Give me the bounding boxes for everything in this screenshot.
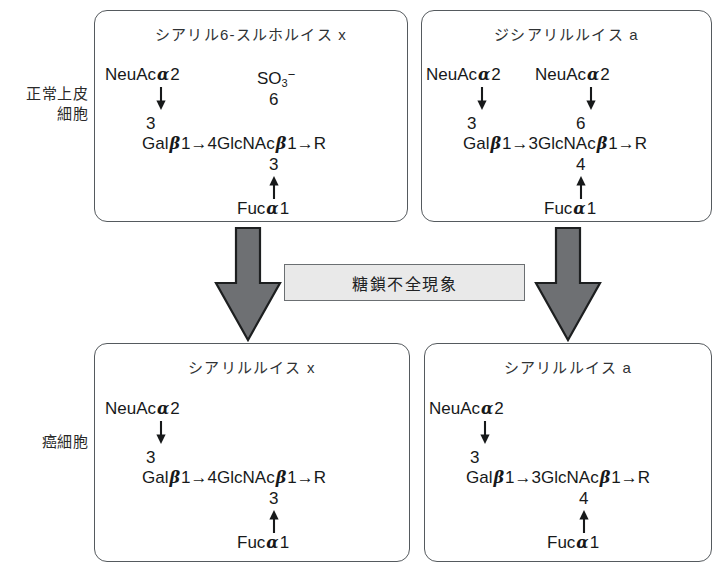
greek-beta-icon-2: β: [275, 468, 288, 487]
sulfate-linkage-number: 6: [269, 91, 278, 108]
linkage-number-lower: 3: [269, 156, 278, 173]
glycan-box-sialyl-6-sulfo-lewis-x: シアリル6-スルホルイス x NeuAcα2 3 SO3− 6 Galβ1→4G…: [94, 10, 408, 222]
residue-fuc: Fucα1: [237, 534, 289, 551]
transition-arrow-right: [530, 226, 606, 344]
greek-alpha-icon-2: α: [265, 533, 279, 552]
linkage-arrow-down: [154, 421, 168, 445]
linkage-arrow-down: [478, 421, 492, 445]
linkage-arrow-up: [574, 175, 588, 199]
greek-alpha-icon: α: [480, 399, 494, 418]
transition-arrow-left: [210, 226, 286, 344]
linkage-number-upper: 3: [146, 449, 155, 466]
residue-neuac-upper: NeuAcα2: [105, 400, 180, 417]
structural-formula: NeuAcα2 3 Galβ1→3GlcNAcβ1→R 4 Fucα1: [425, 344, 711, 561]
linkage-number-upper: 3: [470, 449, 479, 466]
chain-arrow-1: →: [191, 134, 208, 153]
linkage-number-lower: 3: [269, 490, 278, 507]
residue-neuac-upper: NeuAcα2: [105, 66, 180, 83]
linkage-arrow-up: [267, 175, 281, 199]
residue-neuac-right: NeuAcα2: [535, 66, 610, 83]
residue-fuc: Fucα1: [237, 200, 289, 217]
chain-arrow-2: →: [618, 134, 635, 153]
greek-alpha-icon: α: [477, 65, 491, 84]
row-label-normal-epithelium: 正常上皮 細胞: [0, 84, 88, 124]
greek-beta-icon: β: [168, 134, 181, 153]
greek-alpha-icon: α: [156, 399, 170, 418]
sulfate-group: SO3−: [257, 67, 295, 89]
chain-arrow-1: →: [191, 468, 208, 487]
backbone-chain: Galβ1→3GlcNAcβ1→R: [463, 135, 647, 152]
chain-arrow-1: →: [515, 468, 532, 487]
linkage-arrow-up: [577, 509, 591, 533]
chain-arrow-2: →: [297, 468, 314, 487]
glycan-box-sialyl-lewis-a: シアリルルイス a NeuAcα2 3 Galβ1→3GlcNAcβ1→R 4 …: [424, 343, 712, 562]
backbone-chain: Galβ1→4GlcNAcβ1→R: [142, 469, 326, 486]
greek-alpha-icon-3: α: [572, 199, 586, 218]
greek-beta-icon-2: β: [599, 468, 612, 487]
residue-neuac-upper: NeuAcα2: [429, 400, 504, 417]
backbone-chain: Galβ1→3GlcNAcβ1→R: [466, 469, 650, 486]
linkage-arrow-down-right: [584, 87, 598, 111]
structural-formula: NeuAcα2 3 SO3− 6 Galβ1→4GlcNAcβ1→R 3 Fuc…: [95, 11, 407, 221]
linkage-number-left: 3: [467, 115, 476, 132]
glycan-box-disialyl-lewis-a: ジシアリルルイス a NeuAcα2 3 NeuAcα2 6 Galβ1→3Gl…: [421, 10, 712, 222]
greek-beta-icon-2: β: [596, 134, 609, 153]
transition-caption-label: 糖鎖不全現象: [352, 271, 457, 295]
residue-fuc: Fucα1: [547, 534, 599, 551]
greek-alpha-icon-2: α: [265, 199, 279, 218]
transition-caption-box: 糖鎖不全現象: [284, 264, 525, 301]
greek-alpha-icon-2: α: [575, 533, 589, 552]
linkage-arrow-down: [154, 87, 168, 111]
greek-alpha-icon: α: [156, 65, 170, 84]
structural-formula: NeuAcα2 3 Galβ1→4GlcNAcβ1→R 3 Fucα1: [95, 344, 409, 561]
linkage-arrow-down-left: [475, 87, 489, 111]
linkage-arrow-up: [267, 509, 281, 533]
linkage-number-upper: 3: [146, 115, 155, 132]
figure-canvas: 正常上皮 細胞 癌細胞 シアリル6-スルホルイス x NeuAcα2 3 SO3…: [0, 0, 726, 572]
structural-formula: NeuAcα2 3 NeuAcα2 6 Galβ1→3GlcNAcβ1→R 4 …: [422, 11, 711, 221]
backbone-chain: Galβ1→4GlcNAcβ1→R: [142, 135, 326, 152]
greek-beta-icon: β: [489, 134, 502, 153]
chain-arrow-2: →: [297, 134, 314, 153]
glycan-box-sialyl-lewis-x: シアリルルイス x NeuAcα2 3 Galβ1→4GlcNAcβ1→R 3 …: [94, 343, 410, 562]
chain-arrow-2: →: [621, 468, 638, 487]
linkage-number-lower: 4: [576, 156, 585, 173]
linkage-number-lower: 4: [579, 490, 588, 507]
residue-fuc: Fucα1: [544, 200, 596, 217]
greek-beta-icon: β: [492, 468, 505, 487]
greek-beta-icon: β: [168, 468, 181, 487]
residue-neuac-left: NeuAcα2: [426, 66, 501, 83]
greek-beta-icon-2: β: [275, 134, 288, 153]
greek-alpha-icon-2: α: [586, 65, 600, 84]
chain-arrow-1: →: [512, 134, 529, 153]
linkage-number-right: 6: [576, 115, 585, 132]
row-label-cancer-cell: 癌細胞: [0, 432, 88, 452]
